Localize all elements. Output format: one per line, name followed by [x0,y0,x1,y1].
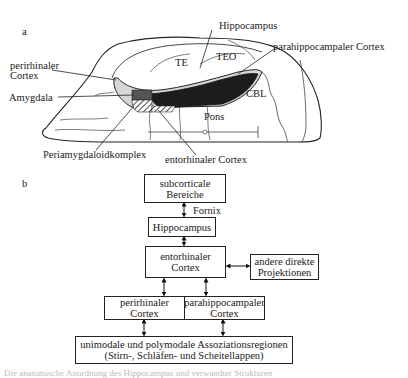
label-periamygdaloid: Periamygdaloidkomplex [43,149,146,160]
label-entorhinal: entorhinaler Cortex [165,154,247,165]
box-other-projections: andere direkte Projektionen [250,254,319,280]
box-subcortical-line1: subcorticale [160,178,211,189]
label-pons: Pons [204,111,224,122]
box-perirhinal: perirhinaler Cortex [104,296,185,320]
box-other-projections-line1: andere direkte [255,256,315,267]
box-perirhinal-line2: Cortex [130,308,159,319]
label-teo: TEO [216,51,236,62]
label-fornix: Fornix [193,205,221,216]
label-perirhinal-2: Cortex [10,70,39,81]
box-parahippocampal: parahippocampaler Cortex [184,296,265,320]
label-parahippocampal: parahippocampaler Cortex [273,41,385,52]
box-subcortical-line2: Bereiche [166,189,203,200]
label-hippocampus: Hippocampus [219,20,277,31]
label-cbl: CBL [246,88,266,99]
label-amygdala: Amygdala [9,92,53,103]
box-association: unimodale und polymodale Assoziationsreg… [75,336,293,364]
box-parahippocampal-line1: parahippocampaler [184,297,264,308]
box-entorhinal-line1: entorhinaler [160,251,211,262]
box-hippocampus: Hippocampus [148,217,216,237]
box-entorhinal: entorhinaler Cortex [145,246,226,278]
box-hippocampus-line1: Hippocampus [153,222,211,233]
box-association-line1: unimodale und polymodale Assoziationsreg… [80,339,287,350]
box-entorhinal-line2: Cortex [171,262,200,273]
box-parahippocampal-line2: Cortex [210,308,239,319]
panel-b-label: b [22,178,27,189]
box-subcortical: subcorticale Bereiche [144,174,226,203]
box-association-line2: (Stirn-, Schläfen- und Scheitellappen) [104,350,263,361]
label-te: TE [175,57,188,68]
figure-caption: Die anatomische Anordnung des Hippocampu… [4,368,272,378]
box-perirhinal-line1: perirhinaler [120,297,169,308]
box-other-projections-line2: Projektionen [258,267,312,278]
